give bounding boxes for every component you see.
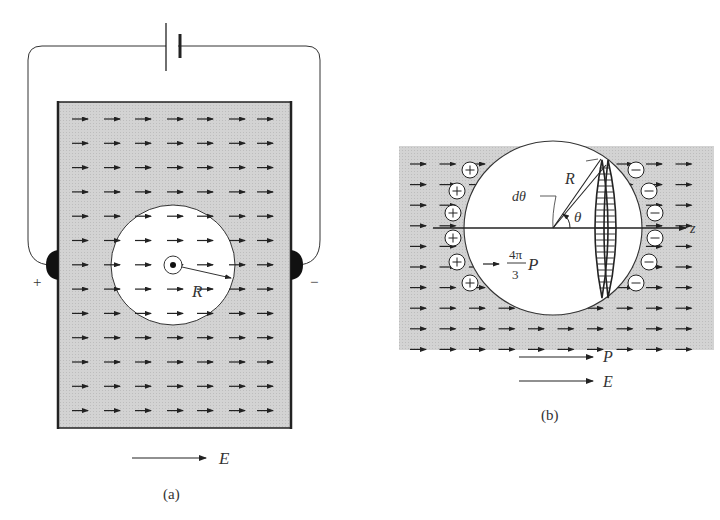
positive-terminal bbox=[46, 250, 58, 280]
inner-field-denominator: 3 bbox=[512, 267, 519, 282]
caption-b: (b) bbox=[541, 407, 559, 424]
panel-a: + − R E (a) bbox=[28, 23, 320, 503]
radius-label: R bbox=[191, 282, 203, 301]
e-field-legend-label: E bbox=[218, 449, 230, 468]
p-legend-label: P bbox=[602, 348, 613, 365]
figure-canvas: + − R E (a) z R bbox=[0, 0, 720, 520]
z-axis-label: z bbox=[689, 221, 696, 236]
plus-terminal-label: + bbox=[33, 274, 41, 290]
dtheta-label: dθ bbox=[512, 189, 526, 204]
caption-a: (a) bbox=[163, 486, 180, 503]
inner-field-numerator: 4π bbox=[509, 247, 523, 262]
minus-terminal-label: − bbox=[310, 274, 318, 290]
out-of-page-dot-icon bbox=[164, 256, 182, 274]
negative-terminal bbox=[291, 250, 303, 280]
theta-label: θ bbox=[574, 209, 582, 225]
battery-icon bbox=[166, 23, 180, 71]
inner-field-symbol: P bbox=[527, 255, 538, 274]
panel-b: z R dθ θ 4π 3 P P E (b) bbox=[399, 141, 714, 424]
radius-label-b: R bbox=[564, 170, 575, 187]
e-legend-label: E bbox=[602, 373, 613, 390]
